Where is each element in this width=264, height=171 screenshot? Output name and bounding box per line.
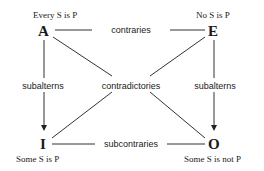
proposition-o: Some S is not P [184,154,241,164]
diagonal-e-i-bottom [52,92,112,138]
proposition-e: No S is P [196,10,230,20]
proposition-a: Every S is P [33,10,77,20]
letter-i: I [40,136,46,152]
label-subalterns-left: subalterns [22,81,64,91]
label-subalterns-right: subalterns [194,81,236,91]
square-of-opposition-diagram: Every S is P A No S is P E I Some S is P… [0,0,264,171]
diagonal-e-i-top [150,37,205,76]
letter-e: E [208,23,218,39]
diagonal-a-o-bottom [150,92,205,138]
proposition-i: Some S is P [16,154,59,164]
diagonal-a-o-top [53,37,112,76]
label-contraries: contraries [111,25,151,35]
label-contradictories: contradictories [102,81,161,91]
label-subcontraries: subcontraries [104,139,159,149]
letter-a: A [38,23,49,39]
letter-o: O [208,136,220,152]
